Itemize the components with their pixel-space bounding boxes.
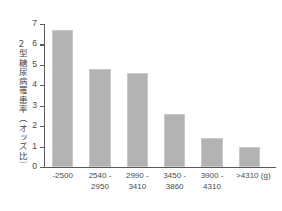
- plot-area: [44, 24, 268, 167]
- x-tick-label: 2990 - 3410: [119, 171, 156, 192]
- y-tick-label: 1: [32, 141, 37, 152]
- y-tick-label: 5: [32, 59, 37, 70]
- bar: [201, 138, 223, 167]
- y-tick-label: 6: [32, 38, 37, 49]
- bar-chart-figure: 2型糖尿病罹患率（オッズ比） 01234567 -25002540 - 2950…: [0, 0, 282, 211]
- y-tick: 6: [0, 44, 44, 45]
- y-tick: 4: [0, 85, 44, 86]
- bar-slot: [119, 24, 156, 167]
- y-tick: 3: [0, 106, 44, 107]
- x-tick-label: >4310 (g): [227, 171, 280, 182]
- x-axis-line: [44, 167, 276, 168]
- y-tick: 0: [0, 167, 44, 168]
- bar: [89, 69, 111, 167]
- y-tick-label: 4: [32, 79, 37, 90]
- y-tick: 5: [0, 65, 44, 66]
- x-tick-label: -2500: [44, 171, 81, 182]
- bar-slot: [156, 24, 193, 167]
- y-tick-label: 0: [32, 161, 37, 172]
- y-tick-label: 2: [32, 120, 37, 131]
- bar-slot: [231, 24, 268, 167]
- x-tick-label: 2540 - 2950: [81, 171, 118, 192]
- y-tick: 1: [0, 147, 44, 148]
- bar: [164, 114, 186, 167]
- bar: [52, 30, 74, 167]
- x-tick-label: 3900 - 4310: [193, 171, 230, 192]
- y-tick: 2: [0, 126, 44, 127]
- bar-slot: [81, 24, 118, 167]
- y-tick-label: 7: [32, 18, 37, 29]
- bar-slot: [44, 24, 81, 167]
- y-tick-label: 3: [32, 100, 37, 111]
- bar: [127, 73, 149, 167]
- bar-slot: [193, 24, 230, 167]
- y-tick: 7: [0, 24, 44, 25]
- x-tick-label: 3450 - 3860: [156, 171, 193, 192]
- y-tick-mark: [40, 167, 44, 168]
- bar: [239, 147, 261, 167]
